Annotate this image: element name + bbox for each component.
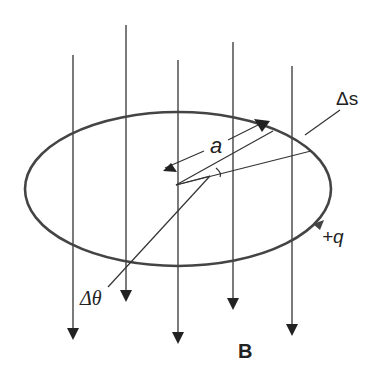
charge-label-text: +q <box>322 226 344 247</box>
arc-length-label: Δs <box>336 88 358 109</box>
radius-line-1 <box>176 131 273 185</box>
radius-label: a <box>210 133 222 158</box>
magnetic-field-lines <box>67 25 298 344</box>
field-arrowhead-icon <box>172 332 184 344</box>
diagram-canvas: Δs a Δθ +q B <box>0 0 386 378</box>
angle-label: Δθ <box>79 287 102 309</box>
angle-arc <box>216 168 221 177</box>
field-arrowhead-icon <box>67 328 79 340</box>
charge-label: +q <box>322 226 344 247</box>
arc-length-leader-line <box>305 110 340 135</box>
angle-leader-line <box>176 176 210 185</box>
field-label: B <box>238 340 252 362</box>
field-arrowhead-icon <box>120 290 132 302</box>
field-arrowhead-icon <box>227 298 239 310</box>
field-arrowhead-icon <box>286 324 298 336</box>
angle-label-leader-line <box>108 176 210 287</box>
